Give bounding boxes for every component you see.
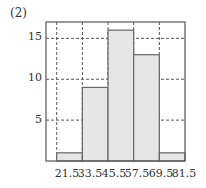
histogram-bar xyxy=(134,55,160,161)
histogram-bar xyxy=(82,87,108,161)
histogram-plot xyxy=(0,0,206,188)
histogram-bar xyxy=(57,153,83,161)
histogram-bar xyxy=(108,30,134,161)
histogram-bar xyxy=(159,153,185,161)
